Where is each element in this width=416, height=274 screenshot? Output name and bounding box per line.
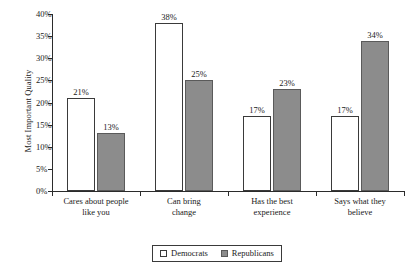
y-axis-tick-label: 0%: [36, 186, 44, 196]
x-axis-category-line: Cares about people: [52, 196, 140, 207]
bar-value-label: 17%: [337, 105, 353, 115]
legend-item-republicans: Republicans: [221, 248, 274, 258]
legend-swatch-icon: [160, 250, 167, 257]
bar-republicans-1: 13%: [97, 133, 125, 191]
legend-label: Republicans: [232, 248, 274, 258]
x-axis-tick: [404, 191, 405, 196]
y-axis-tick-label: 10%: [36, 142, 44, 152]
x-axis-category-label-3: Has the bestexperience: [228, 196, 316, 218]
bar-democrats-3: 17%: [243, 116, 271, 191]
y-axis-tick: [48, 169, 52, 170]
x-axis-category-label-1: Cares about peoplelike you: [52, 196, 140, 218]
x-axis-category-label-2: Can bringchange: [140, 196, 228, 218]
legend-item-democrats: Democrats: [160, 248, 208, 258]
bar-republicans-3: 23%: [273, 89, 301, 191]
bar-democrats-2: 38%: [155, 23, 183, 191]
bar-value-label: 25%: [191, 69, 207, 79]
x-axis-category-line: believe: [316, 207, 404, 218]
x-axis-category-line: Has the best: [228, 196, 316, 207]
y-axis-tick-label: 30%: [36, 53, 44, 63]
bar-democrats-1: 21%: [67, 98, 95, 191]
y-axis-tick-label: 35%: [36, 31, 44, 41]
y-axis-line: [52, 14, 53, 192]
x-axis-category-line: like you: [52, 207, 140, 218]
bar-value-label: 13%: [103, 122, 119, 132]
y-axis-title: Most Important Quality: [23, 31, 33, 191]
bar-value-label: 34%: [367, 30, 383, 40]
x-axis-category-label-4: Says what theybelieve: [316, 196, 404, 218]
bar-value-label: 38%: [161, 12, 177, 22]
x-axis-category-line: Can bring: [140, 196, 228, 207]
chart-legend: DemocratsRepublicans: [152, 245, 282, 262]
bar-value-label: 17%: [249, 105, 265, 115]
x-axis-category-line: experience: [228, 207, 316, 218]
bar-value-label: 21%: [73, 87, 89, 97]
y-axis-tick-label: 5%: [36, 164, 44, 174]
bar-republicans-2: 25%: [185, 80, 213, 191]
x-axis-category-line: Says what they: [316, 196, 404, 207]
y-axis-tick-label: 40%: [36, 9, 44, 19]
legend-label: Democrats: [171, 248, 208, 258]
x-axis-category-line: change: [140, 207, 228, 218]
bar-value-label: 23%: [279, 78, 295, 88]
legend-swatch-icon: [221, 250, 228, 257]
y-axis-tick-label: 25%: [36, 75, 44, 85]
y-axis-tick-label: 15%: [36, 120, 44, 130]
bar-democrats-4: 17%: [331, 116, 359, 191]
bar-chart: Most Important Quality 0%5%10%15%20%25%3…: [0, 0, 416, 274]
plot-area: 0%5%10%15%20%25%30%35%40% 21%13%38%25%17…: [52, 14, 404, 192]
bar-republicans-4: 34%: [361, 41, 389, 191]
y-axis-tick-label: 20%: [36, 98, 44, 108]
